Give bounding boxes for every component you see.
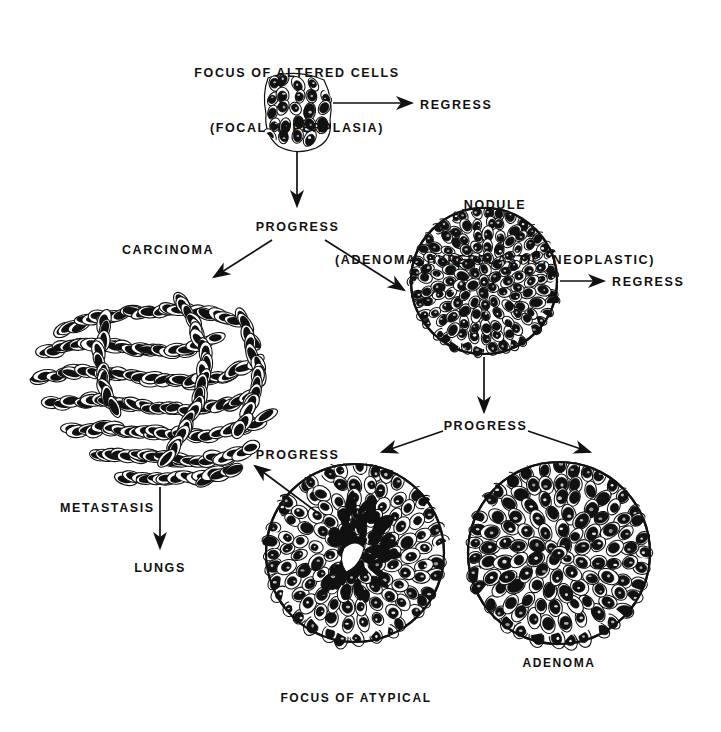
- label-lungs: LUNGS: [110, 559, 210, 577]
- nodule-line1: NODULE: [334, 196, 656, 214]
- label-progress-2: PROGRESS: [428, 417, 543, 435]
- label-atypical-focus: FOCUS OF ATYPICAL OR MALIGNANT CELLS IN …: [250, 655, 462, 732]
- atypical-line1: FOCUS OF ATYPICAL: [250, 690, 462, 707]
- focus-title-line2: (FOCAL HYPERPLASIA): [170, 119, 424, 137]
- nodule-line2: (ADENOMA, HYPERPLASTIC, NEOPLASTIC): [334, 251, 656, 269]
- label-adenoma: ADENOMA: [494, 655, 624, 672]
- label-metastasis: METASTASIS: [60, 499, 178, 517]
- label-carcinoma: CARCINOMA: [108, 241, 228, 259]
- label-regress-1: REGRESS: [420, 96, 530, 114]
- label-progress-3: PROGRESS: [240, 446, 355, 464]
- diagram-canvas: FOCUS OF ALTERED CELLS (FOCAL HYPERPLASI…: [0, 0, 721, 732]
- label-nodule-title: NODULE (ADENOMA, HYPERPLASTIC, NEOPLASTI…: [334, 160, 656, 305]
- label-focus-title: FOCUS OF ALTERED CELLS (FOCAL HYPERPLASI…: [170, 28, 424, 173]
- focus-title-line1: FOCUS OF ALTERED CELLS: [170, 64, 424, 82]
- label-regress-2: REGRESS: [612, 273, 712, 291]
